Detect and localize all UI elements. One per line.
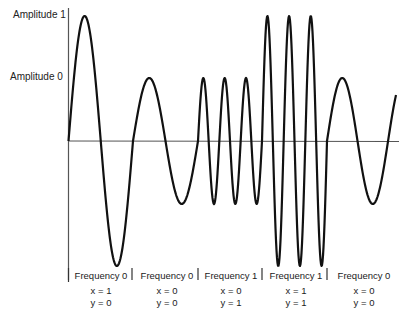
segment-3-label: Frequency 1 x = 0 y = 1 <box>198 270 264 309</box>
segment-4-y: y = 1 <box>263 297 329 309</box>
segment-4-label: Frequency 1 x = 1 y = 1 <box>263 270 329 309</box>
segment-2-x: x = 0 <box>134 285 200 297</box>
time-axis <box>68 141 399 142</box>
segment-4-frequency: Frequency 1 <box>263 270 329 281</box>
segment-3-y: y = 1 <box>198 297 264 309</box>
segment-2-y: y = 0 <box>134 297 200 309</box>
waveform-plot <box>0 0 401 313</box>
segment-2-label: Frequency 0 x = 0 y = 0 <box>134 270 200 309</box>
segment-5-label: Frequency 0 x = 0 y = 0 <box>331 270 397 309</box>
segment-5-y: y = 0 <box>331 297 397 309</box>
segment-3-x: x = 0 <box>198 285 264 297</box>
segment-5-x: x = 0 <box>331 285 397 297</box>
segment-2-frequency: Frequency 0 <box>134 270 200 281</box>
segment-3-frequency: Frequency 1 <box>198 270 264 281</box>
segment-1-frequency: Frequency 0 <box>68 270 134 281</box>
segment-1-y: y = 0 <box>68 297 134 309</box>
segment-1-label: Frequency 0 x = 1 y = 0 <box>68 270 134 309</box>
modulation-diagram: Amplitude 1 Amplitude 0 Frequency 0 x = … <box>0 0 401 313</box>
segment-1-x: x = 1 <box>68 285 134 297</box>
segment-5-frequency: Frequency 0 <box>331 270 397 281</box>
segment-4-x: x = 1 <box>263 285 329 297</box>
